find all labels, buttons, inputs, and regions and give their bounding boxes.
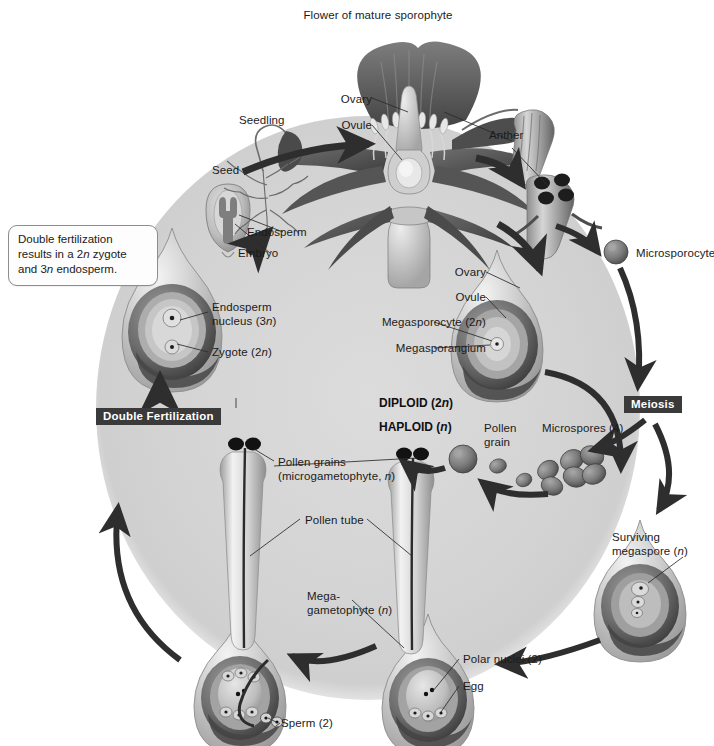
label-anther: Anther [489,128,523,142]
label-endosperm-nucleus: Endospermnucleus (3n) [212,300,277,328]
diagram-artwork [0,0,714,746]
label-seed: Seed [212,163,239,177]
label-microsporocyte: Microsporocyte [636,246,714,260]
label-seedling: Seedling [239,113,285,127]
process-bar-double-fertilization: Double Fertilization [96,408,221,425]
label-ovary-stage: Ovary [386,265,486,279]
label-egg: Egg [463,679,484,693]
label-embryo: Embryo [238,246,278,260]
microsporocyte-art [604,240,628,264]
figure-title: Flower of mature sporophyte [268,8,488,22]
label-polar-nuclei: Polar nuclei (2) [463,652,542,666]
ploidy-haploid: HAPLOID (n) [379,420,452,434]
label-megasporangium: Megasporangium [330,341,486,355]
ploidy-diploid: DIPLOID (2n) [379,396,453,410]
pollen-grain-art [449,445,477,473]
label-sperm: Sperm (2) [281,716,333,730]
label-pollen-grains-microgametophyte: Pollen grains(microgametophyte, n) [278,455,395,483]
label-megasporocyte: Megasporocyte (2n) [330,315,486,329]
label-microspores: Microspores (4) [542,421,623,435]
label-pollen-tube: Pollen tube [305,513,364,527]
label-ovule-stage: Ovule [386,290,486,304]
life-cycle-figure: Flower of mature sporophyte Ovary Ovule … [0,0,714,746]
callout-double-fertilization: Double fertilizationresults in a 2n zygo… [8,225,158,286]
label-surviving-megaspore: Survivingmegaspore (n) [612,530,688,558]
label-ovary-flower: Ovary [260,92,372,106]
anther-art [512,110,555,185]
label-megagametophyte: Mega-gametophyte (n) [307,589,392,617]
label-zygote: Zygote (2n) [212,345,272,359]
process-bar-meiosis: Meiosis [624,396,682,413]
label-endosperm: Endosperm [247,225,307,239]
label-pollen-grain: Pollengrain [484,421,517,449]
